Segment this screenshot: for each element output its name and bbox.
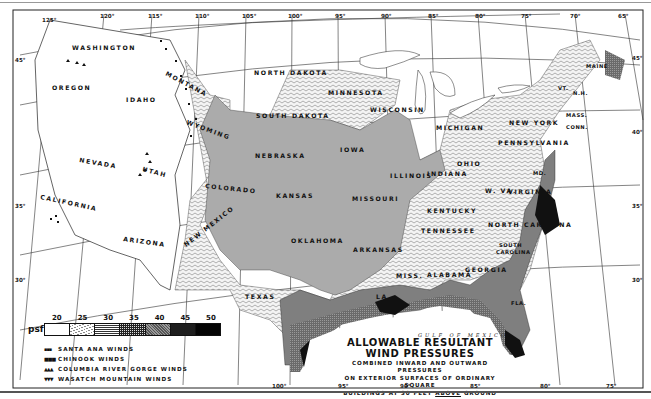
label-minnesota: MINNESOTA [328, 89, 384, 96]
region-40psf-maine [605, 50, 625, 80]
label-north-carolina: NORTH CAROLINA [488, 221, 572, 228]
label-idaho: IDAHO [126, 96, 157, 103]
swatch-45 [171, 324, 196, 335]
svg-text:85°: 85° [428, 13, 439, 19]
bottom-border [0, 391, 651, 393]
svg-text:95°: 95° [335, 13, 346, 19]
legend-value: 25 [70, 314, 96, 323]
legend-scale: 20 25 30 35 40 45 50 [44, 314, 224, 336]
label-oregon: OREGON [52, 84, 91, 91]
svg-text:30°: 30° [632, 277, 643, 283]
svg-text:100°: 100° [272, 383, 287, 389]
legend-value: 50 [198, 314, 224, 323]
svg-text:75°: 75° [521, 13, 532, 19]
label-michigan: MICHIGAN [436, 124, 484, 131]
swatch-30 [95, 324, 120, 335]
label-arkansas: ARKANSAS [353, 246, 404, 253]
triangle-down-marker-icon: ▼▼▼ [44, 376, 58, 382]
svg-text:75°: 75° [606, 383, 617, 389]
label-ohio: OHIO [457, 160, 481, 167]
latitude-ticks-right: 45° 40° 35° 30° [632, 55, 643, 283]
svg-text:40°: 40° [632, 129, 643, 135]
label-louisiana: LA. [376, 293, 392, 300]
label-oklahoma: OKLAHOMA [291, 237, 344, 244]
svg-text:115°: 115° [148, 13, 163, 19]
legend-value: 30 [95, 314, 121, 323]
svg-text:35°: 35° [632, 203, 643, 209]
svg-text:80°: 80° [475, 13, 486, 19]
swatch-40 [146, 324, 171, 335]
square-marker-icon: ■■■ [44, 356, 58, 362]
svg-text:80°: 80° [540, 383, 551, 389]
svg-text:110°: 110° [195, 13, 210, 19]
label-georgia: GEORGIA [465, 266, 508, 273]
legend-value: 40 [147, 314, 173, 323]
swatch-35 [120, 324, 145, 335]
wind-type-legend: ▪▪▪ SANTA ANA WINDS ■■■ CHINOOK WINDS ▲▲… [44, 344, 188, 384]
svg-text:45°: 45° [15, 57, 26, 63]
label-west-virginia: W. VA. [485, 187, 517, 194]
map-title-line2: WIND PRESSURES [330, 348, 510, 359]
svg-text:125°: 125° [42, 17, 57, 23]
map-title-block: ALLOWABLE RESULTANT WIND PRESSURES COMBI… [330, 337, 510, 397]
label-nebraska: NEBRASKA [255, 152, 306, 159]
latitude-ticks-left: 45° 35° 30° [15, 57, 26, 283]
square-small-marker-icon: ▪▪▪ [44, 346, 58, 352]
label-new-hampshire: N.H. [573, 90, 588, 96]
label-new-york: NEW YORK [509, 119, 559, 126]
label-wisconsin: WISCONSIN [370, 106, 425, 113]
svg-text:35°: 35° [15, 203, 26, 209]
legend-value: 35 [121, 314, 147, 323]
label-south-carolina-2: CAROLINA [496, 249, 531, 255]
swatch-20 [45, 324, 70, 335]
swatch-25 [70, 324, 95, 335]
label-connecticut: CONN. [566, 124, 588, 130]
wind-legend-columbia: ▲▲▲ COLUMBIA RIVER GORGE WINDS [44, 364, 188, 374]
svg-text:30°: 30° [15, 277, 26, 283]
legend-value: 45 [172, 314, 198, 323]
map-title-line1: ALLOWABLE RESULTANT [330, 337, 510, 348]
label-massachusetts: MASS. [566, 112, 587, 118]
label-indiana: INDIANA [427, 170, 468, 177]
svg-text:90°: 90° [381, 13, 392, 19]
us-wind-pressure-map: 125° 120° 115° 110° 105° 100° 95° 90° 85… [0, 0, 651, 399]
svg-text:70°: 70° [570, 13, 581, 19]
label-south-carolina-1: SOUTH [499, 242, 522, 248]
svg-text:45°: 45° [632, 55, 643, 61]
label-maryland: MD. [533, 170, 546, 176]
label-florida: FLA. [511, 300, 526, 306]
label-washington: WASHINGTON [72, 44, 136, 51]
west-region-20psf [35, 20, 190, 290]
svg-text:65°: 65° [618, 13, 629, 19]
triangle-up-marker-icon: ▲▲▲ [44, 366, 58, 372]
label-kansas: KANSAS [276, 192, 314, 199]
map-subtitle-line2: ON EXTERIOR SURFACES OF ORDINARY SQUARE [330, 375, 510, 389]
wind-legend-wasatch: ▼▼▼ WASATCH MOUNTAIN WINDS [44, 374, 188, 384]
legend-value: 20 [44, 314, 70, 323]
wind-legend-chinook: ■■■ CHINOOK WINDS [44, 354, 188, 364]
label-north-dakota: NORTH DAKOTA [254, 69, 328, 76]
label-mississippi: MISS. [396, 272, 423, 279]
swatch-50 [196, 324, 220, 335]
svg-text:100°: 100° [288, 13, 303, 19]
label-maine: MAINE [586, 63, 608, 69]
lake-superior [360, 51, 420, 69]
legend-unit: psf [28, 324, 44, 334]
svg-text:105°: 105° [242, 13, 257, 19]
label-iowa: IOWA [340, 146, 365, 153]
map-subtitle-line1: COMBINED INWARD AND OUTWARD PRESSURES [330, 360, 510, 374]
label-kentucky: KENTUCKY [427, 207, 477, 214]
label-vermont: VT. [558, 85, 569, 91]
label-tennessee: TENNESSEE [421, 227, 476, 234]
wind-legend-santa-ana: ▪▪▪ SANTA ANA WINDS [44, 344, 188, 354]
label-missouri: MISSOURI [352, 195, 399, 202]
label-pennsylvania: PENNSYLVANIA [498, 139, 570, 146]
label-south-dakota: SOUTH DAKOTA [256, 112, 330, 119]
svg-text:120°: 120° [100, 13, 115, 19]
label-texas: TEXAS [245, 293, 275, 300]
